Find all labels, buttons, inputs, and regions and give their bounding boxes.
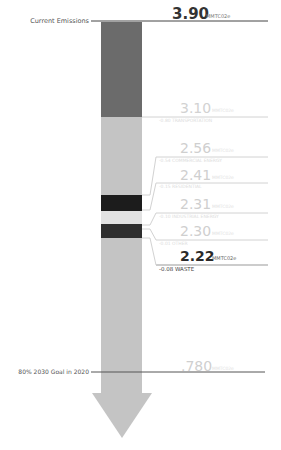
value-2-30: 2.30 [180, 223, 211, 239]
unit-4: MMTC02e [212, 204, 234, 209]
value-3-10: 3.10 [180, 100, 211, 116]
unit-1: MMTC02e [212, 108, 234, 113]
value-2-31: 2.31 [180, 196, 211, 212]
connector-3 [142, 183, 156, 210]
down-arrow-icon [92, 393, 152, 438]
bar-light-gap [101, 211, 142, 224]
bar-remaining-segment [101, 238, 142, 393]
unit-0: MMTC02e [206, 13, 230, 19]
sublabel-3: -0.15 RESIDENTIAL [159, 184, 202, 189]
sublabel-4: -0.10 INDUSTRIAL ENERGY [159, 214, 219, 219]
value-2-56: 2.56 [180, 140, 211, 156]
goal-unit: MMTC02e [212, 366, 234, 371]
connector-6 [142, 238, 156, 265]
sublabel-6: -0.08 WASTE [159, 266, 195, 272]
bar-black-segment-2 [101, 224, 142, 238]
current-emissions-label: Current Emissions [30, 17, 89, 25]
value-3-90: 3.90 [172, 5, 209, 23]
goal-value: .780 [181, 358, 212, 374]
unit-2: MMTC02e [212, 148, 234, 153]
connector-2 [142, 157, 156, 195]
goal-label: 80% 2030 Goal in 2020 [18, 368, 89, 375]
bar-black-segment-1 [101, 195, 142, 211]
unit-3: MMTC02e [212, 175, 234, 180]
emissions-waterfall-chart: Current Emissions 3.90 MMTC02e 3.10 MMTC… [0, 0, 281, 450]
sublabel-5: -0.01 OTHER [159, 241, 188, 246]
bar-current-segment [101, 22, 142, 117]
unit-5: MMTC02e [212, 231, 234, 236]
unit-6: MMTC02e [212, 255, 236, 261]
value-2-41: 2.41 [180, 167, 211, 183]
value-2-22: 2.22 [180, 248, 215, 264]
sublabel-1: -0.80 TRANSPORTATION [159, 118, 212, 123]
sublabel-2: -0.54 COMMERCIAL ENERGY [159, 158, 222, 163]
bar-light-segment [101, 117, 142, 195]
connector-4 [142, 213, 156, 225]
